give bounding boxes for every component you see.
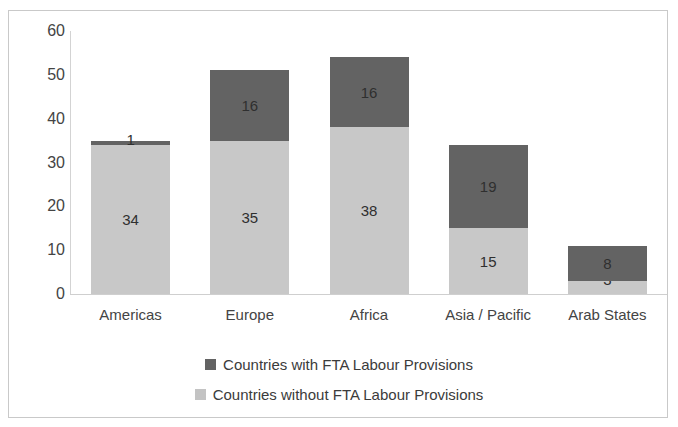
bar-segment-without-provisions[interactable]: 3 xyxy=(568,281,647,294)
y-tick-label: 40 xyxy=(25,111,65,127)
legend-label: Countries with FTA Labour Provisions xyxy=(223,356,473,373)
chart-frame: 0102030405060 34135163816151938 Americas… xyxy=(8,10,668,418)
bar-segment-with-provisions[interactable]: 19 xyxy=(449,145,528,228)
y-tick-label: 50 xyxy=(25,67,65,83)
y-tick-label: 0 xyxy=(25,286,65,302)
y-tick-label: 20 xyxy=(25,198,65,214)
bar-segment-without-provisions[interactable]: 34 xyxy=(91,145,170,294)
y-axis-tick-labels: 0102030405060 xyxy=(13,31,65,294)
plot-area: 34135163816151938 xyxy=(71,31,667,294)
x-category-label: Asia / Pacific xyxy=(428,306,548,323)
bar-group[interactable]: 341 xyxy=(91,141,170,294)
bar-value-label: 19 xyxy=(480,179,497,194)
bar-segment-with-provisions[interactable]: 16 xyxy=(330,57,409,127)
bar-group[interactable]: 3516 xyxy=(210,70,289,294)
bar-segment-without-provisions[interactable]: 15 xyxy=(449,228,528,294)
chart-legend: Countries with FTA Labour ProvisionsCoun… xyxy=(9,349,669,409)
bar-group[interactable]: 1519 xyxy=(449,145,528,294)
bar-value-label: 8 xyxy=(603,256,611,271)
y-axis-line xyxy=(70,31,71,294)
bar-value-label: 35 xyxy=(241,210,258,225)
x-axis-category-labels: AmericasEuropeAfricaAsia / PacificArab S… xyxy=(71,306,667,332)
clipped-header-text xyxy=(0,0,678,9)
x-category-label: Americas xyxy=(71,306,191,323)
bar-segment-without-provisions[interactable]: 38 xyxy=(330,127,409,294)
legend-swatch-with-provisions-icon xyxy=(205,359,216,370)
x-category-label: Africa xyxy=(309,306,429,323)
bar-value-label: 16 xyxy=(361,85,378,100)
x-category-label: Europe xyxy=(190,306,310,323)
y-tick-label: 10 xyxy=(25,242,65,258)
bar-segment-with-provisions[interactable]: 16 xyxy=(210,70,289,140)
legend-label: Countries without FTA Labour Provisions xyxy=(213,386,484,403)
legend-swatch-without-provisions-icon xyxy=(195,389,206,400)
bar-value-label: 38 xyxy=(361,203,378,218)
legend-item[interactable]: Countries with FTA Labour Provisions xyxy=(9,349,669,379)
y-tick-label: 30 xyxy=(25,155,65,171)
bar-value-label: 34 xyxy=(122,212,139,227)
y-tick-label: 60 xyxy=(25,23,65,39)
x-axis-line xyxy=(70,294,667,295)
bar-group[interactable]: 38 xyxy=(568,246,647,294)
bar-segment-with-provisions[interactable]: 1 xyxy=(91,141,170,145)
bar-value-label: 15 xyxy=(480,254,497,269)
bar-segment-without-provisions[interactable]: 35 xyxy=(210,141,289,294)
bar-value-label: 1 xyxy=(126,132,134,147)
bar-group[interactable]: 3816 xyxy=(330,57,409,294)
legend-item[interactable]: Countries without FTA Labour Provisions xyxy=(9,379,669,409)
x-category-label: Arab States xyxy=(547,306,667,323)
bar-segment-with-provisions[interactable]: 8 xyxy=(568,246,647,281)
bar-value-label: 16 xyxy=(241,98,258,113)
